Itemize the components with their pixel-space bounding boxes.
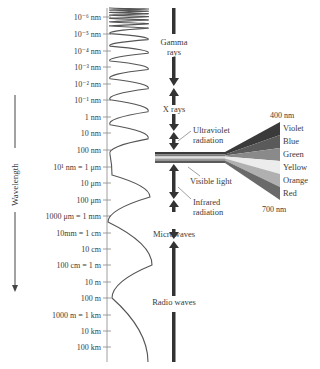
label-radio-waves: Radio waves — [152, 297, 196, 307]
label-400nm: 400 nm — [270, 111, 295, 120]
arrow-up-icon — [169, 88, 179, 96]
label-red: Red — [283, 188, 297, 198]
tick-label: 10 μm — [80, 179, 101, 188]
label-violet: Violet — [283, 123, 304, 133]
tick-label: 10⁻⁶ nm — [74, 13, 102, 22]
tick-label: 10⁻⁵ nm — [74, 30, 102, 39]
tick-label: 100 μm — [76, 196, 101, 205]
arrow-up-icon — [169, 164, 179, 171]
wavelength-axis-title: Wavelength — [10, 95, 20, 292]
leader-line-ultraviolet — [178, 131, 191, 141]
tick-label: 1 nm — [85, 113, 102, 122]
label-microwaves: Microwaves — [153, 229, 195, 239]
label-x-rays: X rays — [163, 104, 185, 114]
tick-label: 100 cm = 1 m — [56, 261, 101, 270]
label-blue: Blue — [283, 136, 299, 146]
label-orange: Orange — [283, 175, 308, 185]
label-infrared-1: Infrared — [193, 197, 221, 207]
tick-label: 100 km — [77, 343, 102, 352]
leader-line-infrared — [178, 187, 191, 199]
spectrum-column — [169, 8, 179, 362]
tick-label: 1000 m = 1 km — [52, 311, 102, 320]
label-gamma-rays-2: rays — [167, 47, 181, 57]
tick-label: 10 cm — [81, 245, 102, 254]
arrow-down-icon — [12, 285, 18, 292]
arrow-down-icon — [169, 192, 179, 199]
tick-label: 10 km — [81, 327, 102, 336]
arrow-down-icon — [169, 124, 179, 131]
tick-label: 10⁻³ nm — [74, 63, 102, 72]
tick-label: 100 m — [81, 294, 102, 303]
label-green: Green — [283, 149, 305, 159]
tick-label: 10 nm — [81, 129, 102, 138]
arrow-down-icon — [169, 78, 179, 86]
leader-line-visible — [188, 167, 200, 176]
label-ultraviolet-2: radiation — [193, 135, 224, 145]
tick-label: 10 m — [85, 278, 102, 287]
label-gamma-rays-1: Gamma — [161, 37, 188, 47]
axis-title-text: Wavelength — [10, 163, 20, 206]
label-infrared-2: radiation — [193, 207, 224, 217]
arrow-up-icon — [169, 132, 179, 139]
tick-label: 100 nm — [77, 146, 102, 155]
tick-label: 1000 μm = 1 mm — [46, 212, 102, 221]
arrow-down-icon — [169, 143, 179, 150]
tick-label: 10¹ nm = 1 μm — [53, 163, 101, 172]
scale-ticks: 10⁻⁶ nm10⁻⁵ nm10⁻⁴ nm10⁻³ nm10⁻² nm10⁻¹ … — [46, 13, 111, 352]
em-spectrum-diagram: Wavelength 10⁻⁶ nm10⁻⁵ nm10⁻⁴ nm10⁻³ nm1… — [0, 0, 320, 369]
tick-label: 10⁻⁴ nm — [74, 47, 102, 56]
label-ultraviolet-1: Ultraviolet — [193, 125, 230, 135]
arrow-up-icon — [169, 241, 179, 248]
wave-curve — [108, 8, 152, 362]
arrow-up-icon — [169, 200, 179, 207]
tick-label: 10mm = 1 cm — [56, 229, 102, 238]
label-yellow: Yellow — [283, 162, 308, 172]
tick-label: 10⁻² nm — [74, 80, 102, 89]
label-700nm: 700 nm — [262, 205, 287, 214]
tick-label: 10⁻¹ nm — [74, 96, 102, 105]
label-visible-light: Visible light — [190, 176, 232, 186]
